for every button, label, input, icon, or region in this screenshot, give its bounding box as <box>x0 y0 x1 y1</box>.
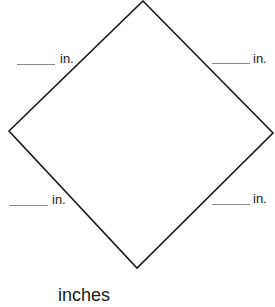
answer-unit-label: inches <box>58 286 110 304</box>
diamond-shape <box>0 0 275 307</box>
diamond-figure: in. in. in. in. inches <box>0 0 275 307</box>
unit-label-top-left: in. <box>60 52 74 65</box>
unit-label-top-right: in. <box>253 52 267 65</box>
answer-blank-top-right[interactable] <box>212 63 250 64</box>
unit-label-bottom-right: in. <box>253 192 267 205</box>
answer-blank-bottom-right[interactable] <box>212 204 250 205</box>
unit-label-bottom-left: in. <box>52 193 66 206</box>
answer-blank-top-left[interactable] <box>17 64 55 65</box>
answer-blank-bottom-left[interactable] <box>9 205 48 206</box>
